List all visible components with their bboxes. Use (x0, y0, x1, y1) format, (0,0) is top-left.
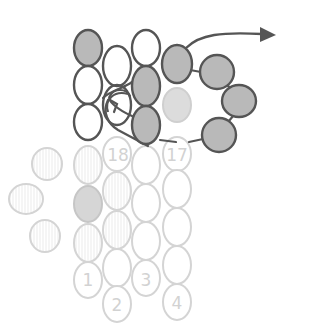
faded-bead-left-1 (32, 148, 62, 180)
beading-diagram: 1 2 3 4 18 17 (0, 0, 309, 331)
picot-bead-3 (202, 118, 236, 152)
faded-bead-c2r5 (103, 211, 131, 249)
faded-bead-c4r6 (163, 246, 191, 284)
thread-segment (189, 139, 203, 142)
picot-bead-1 (200, 55, 234, 89)
bead-c4r1 (162, 45, 192, 83)
faded-bead-c3r5 (132, 184, 160, 222)
faded-bead-layer (9, 137, 191, 322)
bead-c1r3 (74, 104, 102, 140)
label-1: 1 (83, 270, 94, 290)
bead-c3r1 (132, 30, 160, 66)
bead-c1r2 (74, 66, 102, 104)
light-gray-bead-c4r2 (163, 88, 191, 122)
picot-bead-2 (222, 85, 256, 117)
label-3: 3 (141, 270, 152, 290)
bead-c3r3 (132, 106, 160, 144)
label-4: 4 (172, 293, 183, 313)
faded-bead-c4r4 (163, 170, 191, 208)
arrow-right-icon (260, 27, 276, 42)
label-17: 17 (166, 145, 188, 165)
bead-c3r2 (132, 66, 160, 106)
bead-c2r1 (103, 46, 131, 86)
label-18: 18 (107, 145, 129, 165)
active-bead-layer (74, 30, 256, 152)
faded-bead-c3r6 (132, 222, 160, 260)
faded-bead-c1r6 (74, 224, 102, 262)
faded-bead-c1r4 (74, 146, 102, 184)
bead-c1r1 (74, 30, 102, 66)
exit-thread (186, 33, 262, 48)
faded-bead-left-2 (9, 184, 43, 214)
faded-bead-c2r6 (103, 249, 131, 287)
label-2: 2 (112, 295, 123, 315)
faded-bead-c1r5 (74, 186, 102, 222)
faded-bead-c4r5 (163, 208, 191, 246)
faded-bead-c2r4 (103, 172, 131, 210)
faded-bead-c3r4 (132, 146, 160, 184)
faded-bead-left-3 (30, 220, 60, 252)
